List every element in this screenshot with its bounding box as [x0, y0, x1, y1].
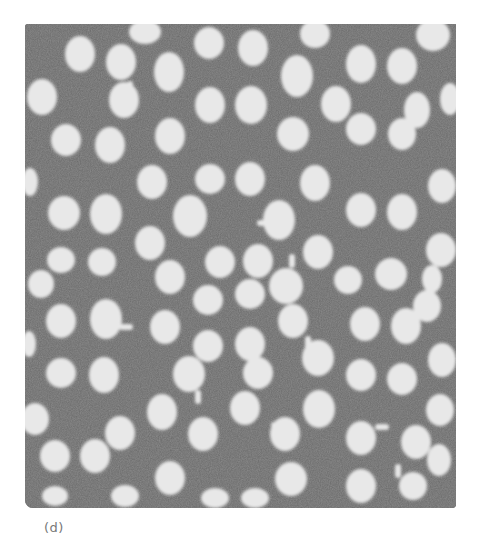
panel-label: (d): [44, 520, 64, 535]
micrograph-image: [25, 24, 456, 508]
micrograph-panel: [25, 24, 456, 508]
